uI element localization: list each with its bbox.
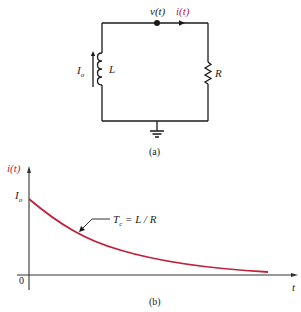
origin-label: 0 — [19, 275, 24, 286]
current-direction-arrow-icon — [179, 20, 185, 25]
y-axis-label: i(t) — [7, 162, 21, 175]
initial-current-arrowhead-icon — [91, 51, 95, 56]
circuit-diagram — [93, 23, 211, 137]
y-intercept-label: Io — [14, 189, 23, 204]
resistor-label: R — [214, 67, 222, 79]
time-constant-annotation: Tc = L / R — [113, 213, 157, 228]
caption-b: (b) — [149, 296, 161, 308]
node-dot — [154, 20, 160, 26]
current-label: i(t) — [176, 5, 190, 18]
inductor-coil — [98, 53, 103, 85]
decay-curve — [29, 199, 268, 272]
decay-graph — [17, 166, 298, 290]
annotation-leader — [82, 219, 110, 229]
ground-icon — [150, 131, 164, 137]
y-axis-arrow-icon — [27, 166, 31, 173]
initial-current-label: Io — [76, 64, 85, 79]
inductor-label: L — [108, 63, 115, 75]
resistor-zigzag — [205, 62, 211, 84]
x-axis-label: t — [292, 281, 296, 293]
node-voltage-label: v(t) — [150, 5, 166, 18]
x-axis-arrow-icon — [291, 273, 298, 277]
caption-a: (a) — [149, 146, 160, 158]
